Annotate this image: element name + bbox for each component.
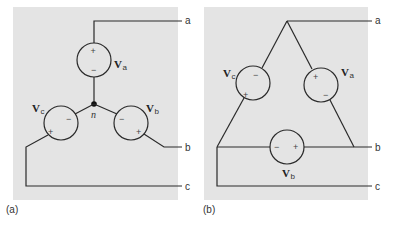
three-phase-source-diagram: + − Va n − + Vc − + Vb a b c: [0, 0, 397, 226]
plus-sign: +: [91, 46, 96, 56]
plus-sign: +: [313, 72, 318, 82]
minus-sign: −: [66, 114, 71, 124]
neutral-label: n: [91, 109, 96, 120]
minus-sign: −: [91, 65, 96, 75]
plus-sign: +: [48, 127, 53, 137]
panel-b-caption: (b): [203, 204, 215, 215]
minus-sign: −: [323, 90, 328, 100]
panel-b-delta-connection: − + Vc + − Va − + Vb a b c (b): [203, 7, 381, 215]
terminal-b-label: b: [185, 142, 191, 153]
terminal-c-label: c: [375, 181, 380, 192]
plus-sign: +: [293, 142, 298, 152]
minus-sign: −: [253, 70, 258, 80]
minus-sign: −: [119, 114, 124, 124]
terminal-a-label: a: [185, 15, 191, 26]
terminal-b-label: b: [375, 142, 381, 153]
panel-a-caption: (a): [6, 204, 18, 215]
terminal-a-label: a: [375, 15, 381, 26]
panel-a-wye-connection: + − Va n − + Vc − + Vb a b c: [6, 7, 191, 215]
minus-sign: −: [274, 142, 279, 152]
plus-sign: +: [136, 127, 141, 137]
terminal-c-label: c: [185, 181, 190, 192]
